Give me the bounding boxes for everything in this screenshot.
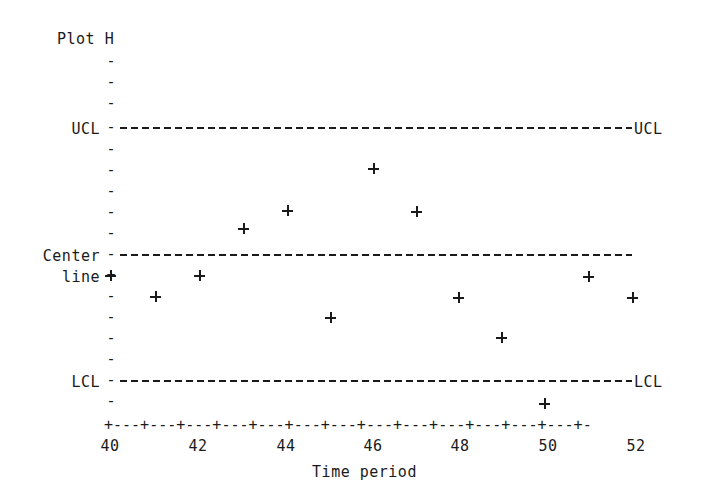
data-point — [282, 205, 293, 216]
y-tick: - — [104, 394, 118, 409]
y-tick: - — [104, 54, 118, 69]
y-tick: - — [104, 310, 118, 325]
x-tick-label: 40 — [80, 437, 140, 455]
data-point — [150, 291, 161, 302]
data-point — [539, 398, 550, 409]
x-tick-label: 48 — [430, 437, 490, 455]
lcl-label-right: LCL — [634, 373, 663, 391]
y-tick: - — [104, 352, 118, 367]
y-tick-lcl: - — [104, 373, 118, 388]
ucl-reference-line — [120, 127, 632, 129]
control-chart: Plot H - - - - - - - - - - + - - - - - -… — [0, 0, 713, 500]
x-tick-label: 52 — [606, 437, 666, 455]
y-tick: - — [104, 142, 118, 157]
y-tick: - — [104, 163, 118, 178]
page-title: Plot H — [57, 30, 114, 48]
data-point — [238, 223, 249, 234]
y-tick: - — [104, 96, 118, 111]
x-axis-line: +---+---+---+---+---+---+---+---+---+---… — [104, 418, 592, 433]
x-tick-label: 44 — [256, 437, 316, 455]
data-point — [411, 206, 422, 217]
data-point — [627, 292, 638, 303]
y-tick: - — [104, 289, 118, 304]
lcl-reference-line — [120, 380, 632, 382]
lcl-label-left: LCL — [4, 373, 100, 391]
ucl-label-right: UCL — [634, 120, 663, 138]
y-tick: - — [104, 205, 118, 220]
y-tick-ucl: - — [104, 120, 118, 135]
y-tick: - — [104, 226, 118, 241]
center-label-left: Center — [4, 247, 100, 265]
y-tick: - — [104, 75, 118, 90]
ucl-label-left: UCL — [4, 120, 100, 138]
y-tick-center: - — [104, 247, 118, 262]
x-tick-label: 50 — [518, 437, 578, 455]
center-label-left-line2: line — [4, 268, 100, 286]
data-point — [496, 332, 507, 343]
y-tick: - — [104, 184, 118, 199]
data-point — [325, 312, 336, 323]
data-point — [583, 271, 594, 282]
data-point — [453, 292, 464, 303]
data-point — [368, 163, 379, 174]
y-tick: - — [104, 331, 118, 346]
x-tick-label: 42 — [168, 437, 228, 455]
data-point — [194, 270, 205, 281]
center-reference-line — [120, 254, 632, 256]
data-point — [105, 270, 116, 281]
x-tick-label: 46 — [343, 437, 403, 455]
x-axis-label: Time period — [8, 463, 713, 481]
